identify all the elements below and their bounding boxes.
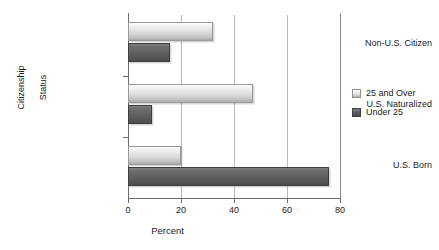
category-label-us-born: U.S. Born [321,160,439,170]
legend-item-25-and-over: 25 and Over [352,88,416,98]
bar-chart: 0 20 40 60 80 Non-U.S. Citizen U.S. Natu… [0,0,439,250]
legend-swatch-icon-under-25 [352,108,361,117]
x-tick-0 [128,198,129,203]
x-tick-label-20: 20 [166,205,196,215]
x-tick-60 [287,198,288,203]
category-label-non-us-citizen: Non-U.S. Citizen [321,38,439,48]
bar-us-born-under-25 [128,167,329,186]
x-tick-20 [181,198,182,203]
legend-swatch-icon-25-and-over [352,89,361,98]
legend-label-under-25: Under 25 [366,107,403,117]
x-tick-40 [234,198,235,203]
y-tick-sep-1 [123,76,128,77]
x-tick-label-60: 60 [272,205,302,215]
x-tick-80 [340,198,341,203]
bar-us-naturalized-25-and-over [128,84,253,103]
y-axis-title-line-2: Status [38,58,49,118]
bar-non-us-citizen-under-25 [128,43,170,62]
bar-us-naturalized-under-25 [128,105,152,124]
y-axis-title: Citizenship Status [5,58,60,118]
legend-item-under-25: Under 25 [352,107,416,117]
x-tick-label-0: 0 [113,205,143,215]
x-tick-label-40: 40 [219,205,249,215]
legend-label-25-and-over: 25 and Over [366,88,416,98]
bar-us-born-25-and-over [128,146,181,165]
x-axis-title: Percent [0,225,439,236]
y-axis-title-line-1: Citizenship [16,58,27,118]
y-tick-sep-2 [123,137,128,138]
x-tick-label-80: 80 [325,205,355,215]
chart-legend: 25 and Over Under 25 [352,88,416,126]
x-axis-title-text: Percent [151,225,184,236]
bar-non-us-citizen-25-and-over [128,22,213,41]
